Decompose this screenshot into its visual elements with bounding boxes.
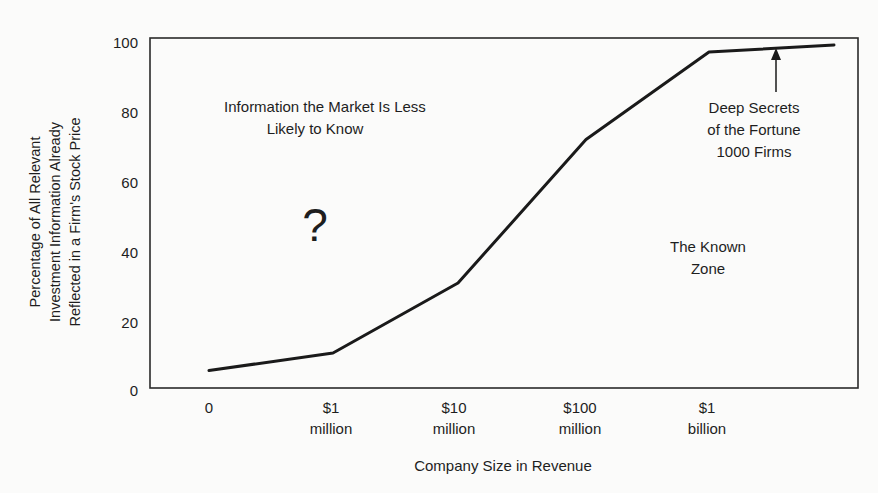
y-axis-label-line: Investment Information Already [47,121,63,322]
y-tick: 100 [113,34,138,51]
annotation-line: Information the Market Is Less [224,98,426,115]
x-tick: million [559,420,602,437]
y-axis-label-line: Percentage of All Relevant [27,137,43,308]
x-tick: billion [688,420,726,437]
chart: 100 80 60 40 20 0 Percentage of All Rele… [0,0,878,493]
annotation-known-zone: The Known Zone [670,238,746,277]
x-tick: $10 [441,399,466,416]
annotation-line: 1000 Firms [716,143,791,160]
y-tick: 20 [121,314,138,331]
x-tick: 0 [205,399,213,416]
y-tick: 0 [130,382,138,399]
x-tick: $1 [699,399,716,416]
annotation-less-known: Information the Market Is Less Likely to… [224,98,426,137]
y-tick: 80 [121,104,138,121]
x-tick: $100 [563,399,596,416]
annotation-line: of the Fortune [707,121,800,138]
x-tick: $1 [323,399,340,416]
y-axis-label-line: Reflected in a Firm's Stock Price [67,117,83,326]
annotation-line: Likely to Know [267,120,364,137]
x-axis-label: Company Size in Revenue [414,457,592,474]
y-tick: 60 [121,174,138,191]
x-axis-ticks: 0 $1 million $10 million $100 million $1… [205,399,726,437]
annotation-deep-secrets: Deep Secrets of the Fortune 1000 Firms [707,48,800,160]
x-tick: million [433,420,476,437]
y-axis-label: Percentage of All Relevant Investment In… [27,117,83,326]
annotation-line: Deep Secrets [709,99,800,116]
y-axis-ticks: 100 80 60 40 20 0 [113,34,138,399]
annotation-line: Zone [691,260,725,277]
plot-frame [150,38,858,388]
x-tick: million [310,420,353,437]
y-tick: 40 [121,244,138,261]
annotation-line: The Known [670,238,746,255]
question-mark: ? [302,199,328,251]
